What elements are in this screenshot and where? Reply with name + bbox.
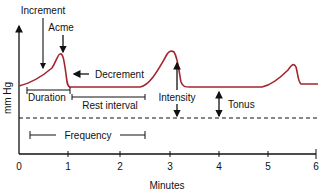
x-tick-2: 2 [117,161,123,172]
x-tick-1: 1 [65,161,71,172]
contraction-curve [19,51,318,87]
x-tick-6: 6 [313,161,319,172]
rest-interval-label: Rest interval [82,100,138,111]
x-tick-4: 4 [216,161,222,172]
x-tick-0: 0 [16,161,22,172]
intensity-label: Intensity [158,92,195,103]
duration-label: Duration [28,92,66,103]
acme-label: Acme [48,22,74,33]
frequency-label: Frequency [64,130,111,141]
decrement-label: Decrement [95,69,144,80]
x-axis-label: Minutes [149,180,184,191]
x-tick-3: 3 [167,161,173,172]
increment-label: Increment [21,5,66,16]
tonus-label: Tonus [228,99,255,110]
x-tick-5: 5 [265,161,271,172]
contraction-diagram: 0 1 2 3 4 5 6 Minutes mm Hg Increment Ac… [0,0,325,194]
y-axis-label: mm Hg [2,82,13,114]
x-axis [19,149,316,159]
